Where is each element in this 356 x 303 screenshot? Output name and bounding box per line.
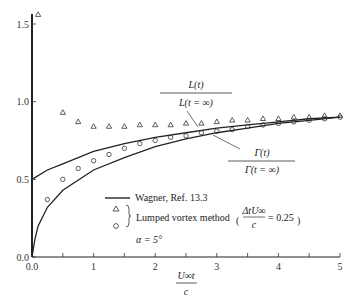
triangle-marker [122, 124, 127, 129]
circulation-ratio-denominator: Γ(t = ∞) [244, 164, 280, 176]
x-axis-label: U∞t c [176, 270, 197, 297]
triangle-marker [153, 122, 158, 127]
circle-marker [61, 177, 65, 181]
triangle-marker [260, 116, 265, 121]
legend-param-denominator: c [252, 219, 257, 230]
triangle-marker [106, 124, 111, 129]
legend-wagner-label: Wagner, Ref. 13.3 [135, 192, 207, 203]
legend-alpha: α = 5° [136, 234, 162, 245]
axes: 0.0123450.00.51.01.5 [17, 14, 343, 272]
triangle-marker [245, 117, 250, 122]
triangle-marker [214, 119, 219, 124]
x-axis-label-numerator: U∞t [177, 270, 194, 281]
x-tick-label: 4 [276, 261, 281, 272]
lift-circulation-chart: 0.0123450.00.51.01.5 L(t) L(t = ∞) Γ(t) … [0, 0, 356, 303]
x-tick-label: 1 [91, 261, 96, 272]
legend: Wagner, Ref. 13.3 Lumped vortex method (… [105, 192, 300, 245]
triangle-marker [137, 122, 142, 127]
triangle-marker [91, 124, 96, 129]
paren-close: ) [297, 215, 300, 227]
triangle-marker [276, 116, 281, 121]
circle-marker [107, 152, 111, 156]
circle-marker [138, 141, 142, 145]
x-tick-label: 0.0 [26, 261, 39, 272]
y-tick-label: 1.0 [17, 96, 30, 107]
circle-marker [76, 166, 80, 170]
y-tick-label: 0.0 [17, 252, 30, 263]
triangle-marker [291, 114, 296, 119]
x-tick-label: 3 [214, 261, 219, 272]
legend-triangle-marker [113, 206, 119, 211]
triangle-marker [60, 110, 65, 115]
circulation-leader-line [213, 135, 240, 149]
circle-marker [91, 158, 95, 162]
circle-marker [153, 138, 157, 142]
x-tick-label: 2 [153, 261, 158, 272]
chart-container: 0.0123450.00.51.01.5 L(t) L(t = ∞) Γ(t) … [0, 0, 356, 303]
x-axis-label-denominator: c [184, 286, 189, 297]
wagner-curve [32, 117, 340, 179]
circulation-ratio-numerator: Γ(t) [253, 147, 270, 159]
triangle-marker [199, 121, 204, 126]
y-tick-label: 1.5 [17, 19, 30, 30]
circle-marker [184, 134, 188, 138]
legend-method-label: Lumped vortex method [136, 212, 230, 223]
lift-ratio-numerator: L(t) [188, 79, 205, 91]
circle-marker [122, 146, 126, 150]
triangle-marker [230, 117, 235, 122]
x-tick-label: 5 [338, 261, 343, 272]
legend-param-value: = 0.25 [268, 212, 294, 223]
legend-param-numerator: ΔtU∞ [242, 205, 266, 216]
circle-marker [45, 197, 49, 201]
triangle-marker [168, 122, 173, 127]
legend-circle-marker [114, 224, 119, 229]
y-tick-label: 0.5 [17, 174, 30, 185]
triangle-marker [76, 119, 81, 124]
triangle-marker [183, 121, 188, 126]
circle-marker [168, 135, 172, 139]
paren-open: ( [236, 215, 240, 227]
lift-ratio-denominator: L(t = ∞) [178, 97, 214, 109]
circle-marker [199, 131, 203, 135]
triangle-marker [36, 12, 41, 17]
legend-brace [126, 205, 131, 227]
